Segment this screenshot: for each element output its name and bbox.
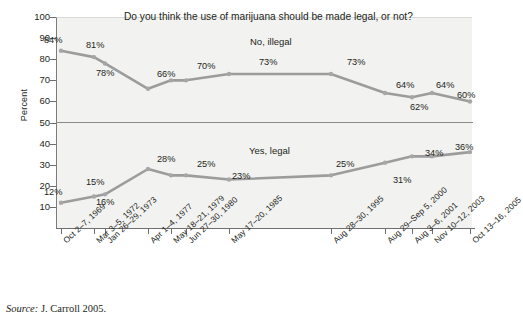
data-label-no-illegal: 84% (44, 36, 62, 45)
data-label-no-illegal: 64% (396, 81, 414, 90)
y-tick-mark (50, 17, 56, 18)
y-tick-label: 50 (16, 118, 50, 128)
data-label-yes-legal: 25% (197, 160, 215, 169)
data-label-yes-legal: 28% (157, 155, 175, 164)
source-body: J. Carroll 2005. (41, 303, 106, 314)
y-tick-label: 60 (16, 96, 50, 106)
chart-title: Do you think the use of marijuana should… (124, 11, 413, 22)
y-tick-mark (50, 144, 56, 145)
x-tick-mark (331, 228, 332, 234)
y-tick-mark (50, 165, 56, 166)
y-tick-mark (50, 207, 56, 208)
data-label-no-illegal: 70% (197, 62, 215, 71)
plot-area (56, 17, 472, 229)
series-annotation-yes-legal: Yes, legal (249, 145, 290, 156)
y-tick-mark (50, 123, 56, 124)
y-axis-ticks: 100908070605040302010 (0, 0, 50, 327)
x-tick-mark (148, 228, 149, 234)
y-tick-label: 30 (16, 160, 50, 170)
data-label-no-illegal: 64% (436, 81, 454, 90)
x-tick-mark (229, 228, 230, 234)
data-label-no-illegal: 73% (347, 58, 365, 67)
y-tick-label: 70 (16, 75, 50, 85)
data-label-yes-legal: 23% (232, 172, 250, 181)
y-tick-mark (50, 59, 56, 60)
y-tick-label: 80 (16, 54, 50, 64)
y-tick-label: 100 (16, 12, 50, 22)
data-label-no-illegal: 78% (96, 69, 114, 78)
data-label-yes-legal: 36% (455, 143, 473, 152)
y-tick-mark (50, 80, 56, 81)
x-tick-mark (94, 228, 95, 234)
data-label-yes-legal: 25% (336, 160, 354, 169)
data-label-no-illegal: 73% (259, 58, 277, 67)
data-label-yes-legal: 34% (425, 149, 443, 158)
y-tick-mark (50, 101, 56, 102)
x-tick-mark (385, 228, 386, 234)
data-label-yes-legal: 31% (393, 176, 411, 185)
data-label-yes-legal: 12% (44, 188, 62, 197)
data-label-no-illegal: 66% (157, 70, 175, 79)
data-label-no-illegal: 62% (410, 103, 428, 112)
midline-50 (56, 122, 473, 123)
y-tick-label: 40 (16, 139, 50, 149)
data-label-yes-legal: 16% (96, 198, 114, 207)
x-tick-mark (470, 228, 471, 234)
x-tick-mark (61, 228, 62, 234)
source-caption: Source: J. Carroll 2005. (6, 303, 106, 314)
series-annotation-no-illegal: No, illegal (250, 36, 292, 47)
y-tick-label: 10 (16, 202, 50, 212)
x-tick-mark (412, 228, 413, 234)
data-label-no-illegal: 60% (457, 91, 475, 100)
data-label-no-illegal: 81% (86, 41, 104, 50)
source-prefix: Source: (6, 303, 38, 314)
data-label-yes-legal: 15% (86, 178, 104, 187)
